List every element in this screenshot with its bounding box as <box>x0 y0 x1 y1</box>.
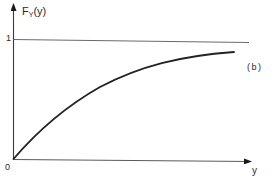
x-axis <box>14 160 252 162</box>
x-axis-label: y <box>252 166 257 176</box>
cdf-plot <box>0 0 274 181</box>
tick-label-one: 1 <box>6 34 11 43</box>
asymptote-line <box>14 40 250 43</box>
panel-label: (b) <box>247 63 263 72</box>
origin-label: 0 <box>5 163 10 172</box>
cdf-curve <box>14 52 235 159</box>
y-axis-label: FY(y) <box>22 6 46 18</box>
